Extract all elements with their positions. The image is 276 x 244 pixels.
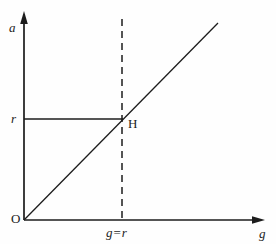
x-axis-tick-label-lhs: g (106, 225, 113, 240)
y-axis-arrowhead-icon (20, 11, 28, 24)
identity-line-a-equals-g (24, 23, 218, 220)
y-axis-tick-label-r: r (11, 112, 16, 125)
diagram-svg (0, 0, 276, 244)
x-axis-arrowhead-icon (252, 216, 265, 224)
equals-sign: = (113, 225, 122, 240)
origin-label: O (11, 212, 20, 225)
x-axis-tick-label-rhs: r (122, 225, 127, 240)
x-axis-label: g (259, 227, 266, 240)
diagram-canvas: a g O r H g=r (0, 0, 276, 244)
y-axis-label: a (9, 21, 16, 34)
intersection-point-label-h: H (128, 117, 137, 130)
x-axis-tick-label-g-equals-r: g=r (106, 226, 127, 239)
